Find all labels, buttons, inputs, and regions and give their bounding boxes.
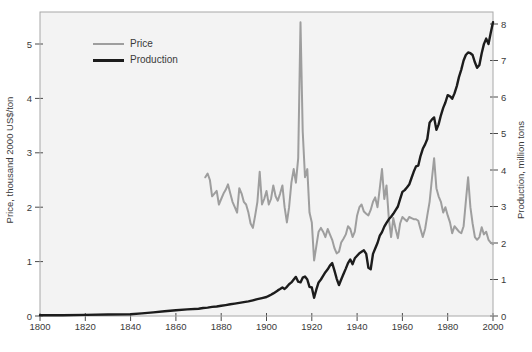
production-line-swatch	[93, 59, 124, 62]
legend-label-production: Production	[130, 55, 178, 65]
x-tick-label: 1900	[256, 321, 277, 332]
left-tick-label: 3	[27, 147, 32, 158]
right-tick-label: 4	[501, 165, 506, 176]
left-tick-label: 2	[27, 202, 32, 213]
x-tick-label: 1940	[347, 321, 368, 332]
legend-item-production: Production	[93, 55, 178, 65]
legend-label-price: Price	[130, 39, 153, 49]
legend: Price Production	[93, 39, 178, 65]
left-tick-label: 1	[27, 256, 32, 267]
x-tick-label: 1880	[211, 321, 232, 332]
x-tick-label: 1960	[392, 321, 413, 332]
left-tick-label: 4	[27, 93, 32, 104]
x-tick-label: 1800	[29, 321, 50, 332]
left-axis-title: Price, thousand 2000 US$/ton	[4, 97, 15, 224]
right-tick-label: 0	[501, 311, 506, 322]
right-tick-label: 6	[501, 92, 506, 103]
right-tick-label: 2	[501, 238, 506, 249]
right-tick-label: 5	[501, 128, 506, 139]
left-tick-label: 5	[27, 39, 32, 50]
plot-svg: 1800182018401860188019001920194019601980…	[0, 0, 532, 352]
x-tick-label: 1920	[301, 321, 322, 332]
price-production-chart: 1800182018401860188019001920194019601980…	[0, 0, 532, 352]
right-axis-title: Production, million tons	[515, 121, 526, 219]
x-tick-label: 1820	[75, 321, 96, 332]
x-tick-label: 1840	[120, 321, 141, 332]
right-tick-label: 1	[501, 274, 506, 285]
left-tick-label: 0	[27, 311, 32, 322]
right-tick-label: 8	[501, 19, 506, 30]
legend-item-price: Price	[93, 39, 178, 49]
x-tick-label: 1980	[437, 321, 458, 332]
right-tick-label: 3	[501, 201, 506, 212]
x-tick-label: 1860	[165, 321, 186, 332]
x-tick-label: 2000	[482, 321, 503, 332]
price-line-swatch	[93, 43, 124, 45]
right-tick-label: 7	[501, 55, 506, 66]
